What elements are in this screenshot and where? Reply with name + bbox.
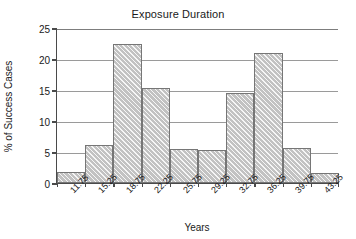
y-axis-title-text: % of Success Cases — [4, 61, 15, 153]
chart-title: Exposure Duration — [0, 8, 356, 20]
y-axis-tick-label: 20 — [39, 55, 50, 66]
y-axis-tick-label: 0 — [44, 179, 50, 190]
y-axis-title: % of Success Cases — [2, 29, 16, 184]
y-axis-tick — [52, 152, 57, 153]
bar — [226, 93, 254, 183]
x-axis-tick — [57, 183, 58, 187]
gridline — [57, 122, 338, 123]
bar — [113, 44, 141, 184]
bar — [254, 53, 282, 183]
gridline — [57, 29, 338, 30]
y-axis-tick-label: 10 — [39, 117, 50, 128]
y-axis-tick-label: 15 — [39, 86, 50, 97]
y-axis-tick — [52, 90, 57, 91]
y-axis-tick — [52, 28, 57, 29]
plot-area: 0510152025 — [56, 29, 338, 184]
bar — [142, 88, 170, 183]
y-axis-tick-label: 5 — [44, 148, 50, 159]
y-axis-tick-label: 25 — [39, 24, 50, 35]
x-axis-title: Years — [56, 222, 338, 233]
gridline — [57, 60, 338, 61]
gridline — [57, 91, 338, 92]
y-axis-tick — [52, 59, 57, 60]
histogram-chart: Exposure Duration % of Success Cases 051… — [0, 0, 356, 239]
plot-inner: 0510152025 — [57, 29, 338, 183]
y-axis-tick — [52, 121, 57, 122]
